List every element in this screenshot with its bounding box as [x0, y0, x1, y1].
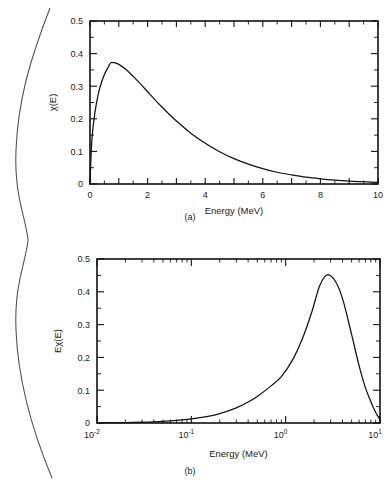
exponent: -1 [188, 428, 194, 435]
y-tick-label: 0.3 [77, 320, 90, 330]
y-tick-label: 0.3 [70, 82, 83, 92]
x-axis-label: Energy (MeV) [209, 448, 268, 459]
panel-b-caption: (b) [160, 466, 220, 476]
exponent: 0 [284, 428, 288, 435]
y-axis-label: χ(E) [47, 94, 58, 112]
panel-a-plot: 024681000.10.20.30.40.5Energy (MeV)χ(E) [47, 16, 383, 216]
exponent: 1 [378, 428, 382, 435]
x-tick-label: 10-1 [178, 428, 194, 440]
panel-b-plot: 10-210-110010100.10.20.30.40.5Energy (Me… [52, 254, 382, 459]
y-tick-label: 0.2 [70, 114, 83, 124]
x-tick-label: 8 [318, 190, 323, 200]
x-tick-label: 4 [203, 190, 208, 200]
plot-frame [97, 259, 380, 423]
y-tick-label: 0.2 [77, 353, 90, 363]
panel-b: 10-210-110010100.10.20.30.40.5Energy (Me… [28, 243, 388, 473]
panel-a-caption: (a) [160, 212, 220, 222]
y-tick-label: 0.5 [77, 254, 90, 264]
x-tick-label: 10-2 [84, 428, 100, 440]
panel-a: 024681000.10.20.30.40.5Energy (MeV)χ(E) [28, 4, 388, 229]
y-tick-label: 0.4 [77, 287, 90, 297]
y-tick-label: 0.1 [70, 147, 83, 157]
data-curve [90, 62, 378, 184]
x-tick-label: 100 [274, 428, 288, 440]
plot-frame [90, 21, 378, 184]
y-tick-label: 0.1 [77, 386, 90, 396]
data-curve [97, 275, 380, 423]
x-tick-label: 6 [260, 190, 265, 200]
y-tick-label: 0 [85, 418, 90, 428]
figure-container: 024681000.10.20.30.40.5Energy (MeV)χ(E) … [0, 0, 392, 487]
y-tick-label: 0 [78, 179, 83, 189]
x-tick-label: 101 [368, 428, 382, 440]
x-tick-label: 10 [373, 190, 383, 200]
y-tick-label: 0.4 [70, 49, 83, 59]
y-tick-label: 0.5 [70, 16, 83, 26]
x-tick-label: 2 [145, 190, 150, 200]
y-axis-label: Eχ(E) [52, 329, 63, 353]
exponent: -2 [94, 428, 100, 435]
x-tick-label: 0 [87, 190, 92, 200]
